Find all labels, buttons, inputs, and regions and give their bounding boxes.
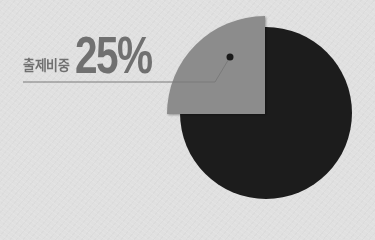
annotation-label: 출제비중 [23,58,69,72]
slice-annotation: 출제비중 25% [23,28,173,78]
pie-slice-highlight [167,16,265,114]
annotation-value: 25% [75,32,152,78]
marker-dot [227,54,234,61]
